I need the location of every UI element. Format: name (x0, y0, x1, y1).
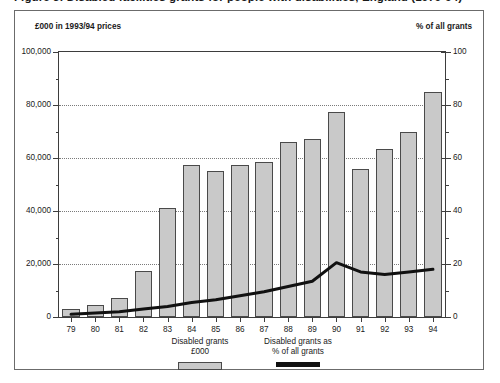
x-axis-tick-83 (168, 317, 169, 322)
x-axis-tick-86 (240, 317, 241, 322)
x-axis-label-92: 92 (380, 326, 389, 334)
y-axis-label-0: 0 (46, 313, 51, 321)
x-axis-tick-94 (433, 317, 434, 322)
x-axis-tick-82 (143, 317, 144, 322)
x-axis-tick-87 (264, 317, 265, 322)
y-axis-tick-40000 (53, 211, 59, 212)
x-axis-label-85: 85 (211, 326, 220, 334)
legend-entry-line-legend: Disabled grants as% of all grants (254, 337, 342, 370)
right-axis-unit-caption: % of all grants (416, 22, 472, 31)
y2-axis-label-40: 40 (453, 207, 462, 215)
bar-87[interactable] (255, 162, 272, 317)
y-axis-tick-60000 (53, 158, 59, 159)
y2-axis-minor-tick-30 (445, 238, 449, 239)
y2-axis-tick-100 (445, 52, 451, 53)
bar-80[interactable] (87, 305, 104, 317)
x-axis-tick-85 (216, 317, 217, 322)
plot-area: 020,00040,00060,00080,000100,00002040608… (58, 51, 446, 318)
y2-axis-minor-tick-90 (445, 79, 449, 80)
chart-legend: Disabled grants£000Disabled grants as% o… (15, 337, 483, 370)
bar-92[interactable] (376, 149, 393, 317)
y2-axis-tick-20 (445, 264, 451, 265)
y2-axis-tick-0 (445, 317, 451, 318)
bar-91[interactable] (352, 169, 369, 317)
x-axis-label-82: 82 (139, 326, 148, 334)
x-axis-tick-88 (288, 317, 289, 322)
legend-text-line2: £000 (191, 347, 209, 357)
y2-axis-tick-80 (445, 105, 451, 106)
x-axis-tick-79 (71, 317, 72, 322)
bar-83[interactable] (159, 208, 176, 317)
x-axis-tick-93 (409, 317, 410, 322)
bar-85[interactable] (207, 171, 224, 317)
legend-swatch-bars-legend (178, 362, 222, 370)
legend-text-line1: Disabled grants (172, 337, 229, 347)
x-axis-tick-80 (95, 317, 96, 322)
y-axis-label-20000: 20,000 (26, 260, 51, 268)
x-axis-label-79: 79 (67, 326, 76, 334)
x-axis-tick-92 (385, 317, 386, 322)
x-axis-tick-89 (312, 317, 313, 322)
y2-axis-label-60: 60 (453, 154, 462, 162)
y-axis-tick-100000 (53, 52, 59, 53)
y2-axis-tick-60 (445, 158, 451, 159)
plot-inner: 020,00040,00060,00080,000100,00002040608… (59, 52, 445, 317)
bar-82[interactable] (135, 271, 152, 317)
y2-axis-label-20: 20 (453, 260, 462, 268)
x-axis-label-86: 86 (235, 326, 244, 334)
y-axis-label-100000: 100,000 (21, 48, 51, 56)
x-axis-label-80: 80 (91, 326, 100, 334)
bar-93[interactable] (400, 132, 417, 318)
legend-text-line1: Disabled grants as (264, 337, 332, 347)
y2-axis-label-80: 80 (453, 101, 462, 109)
x-axis-tick-84 (192, 317, 193, 322)
x-axis-label-87: 87 (260, 326, 269, 334)
y-axis-minor-tick-50000 (56, 185, 60, 186)
bar-84[interactable] (183, 165, 200, 317)
x-axis-label-88: 88 (284, 326, 293, 334)
legend-entry-bars-legend: Disabled grants£000 (156, 337, 244, 370)
bar-89[interactable] (304, 139, 321, 317)
y2-axis-minor-tick-50 (445, 185, 449, 186)
y-axis-tick-20000 (53, 264, 59, 265)
x-axis-label-91: 91 (356, 326, 365, 334)
y-axis-tick-0 (53, 317, 59, 318)
y-axis-label-60000: 60,000 (26, 154, 51, 162)
bar-94[interactable] (424, 92, 441, 317)
x-axis-label-89: 89 (308, 326, 317, 334)
y-axis-label-40000: 40,000 (26, 207, 51, 215)
x-axis-label-83: 83 (163, 326, 172, 334)
y-axis-minor-tick-30000 (56, 238, 60, 239)
x-axis-tick-91 (361, 317, 362, 322)
y-axis-minor-tick-10000 (56, 291, 60, 292)
bar-79[interactable] (62, 309, 79, 317)
bar-86[interactable] (231, 165, 248, 317)
legend-text-line2: % of all grants (272, 347, 324, 357)
bar-81[interactable] (111, 298, 128, 317)
gridline-80000 (59, 105, 445, 106)
bar-90[interactable] (328, 112, 345, 317)
x-axis-label-84: 84 (187, 326, 196, 334)
y2-axis-inner-tick-100 (441, 52, 445, 53)
x-axis-label-94: 94 (428, 326, 437, 334)
x-axis-label-81: 81 (115, 326, 124, 334)
y-axis-tick-80000 (53, 105, 59, 106)
legend-swatch-line-legend (276, 362, 320, 367)
y2-axis-label-100: 100 (453, 48, 467, 56)
y2-axis-minor-tick-10 (445, 291, 449, 292)
x-axis-tick-90 (336, 317, 337, 322)
x-axis-label-90: 90 (332, 326, 341, 334)
y2-axis-label-0: 0 (453, 313, 458, 321)
y-axis-label-80000: 80,000 (26, 101, 51, 109)
chart-panel: £000 in 1993/94 prices % of all grants 0… (14, 10, 484, 370)
y2-axis-minor-tick-70 (445, 132, 449, 133)
y-axis-minor-tick-70000 (56, 132, 60, 133)
figure-title: Figure 3: Disabled facilities grants for… (14, 0, 484, 3)
x-axis-tick-81 (119, 317, 120, 322)
y2-axis-tick-40 (445, 211, 451, 212)
left-axis-unit-caption: £000 in 1993/94 prices (35, 22, 121, 31)
y2-axis-inner-tick-0 (441, 317, 445, 318)
x-axis-label-93: 93 (404, 326, 413, 334)
bar-88[interactable] (280, 142, 297, 317)
y-axis-minor-tick-90000 (56, 79, 60, 80)
